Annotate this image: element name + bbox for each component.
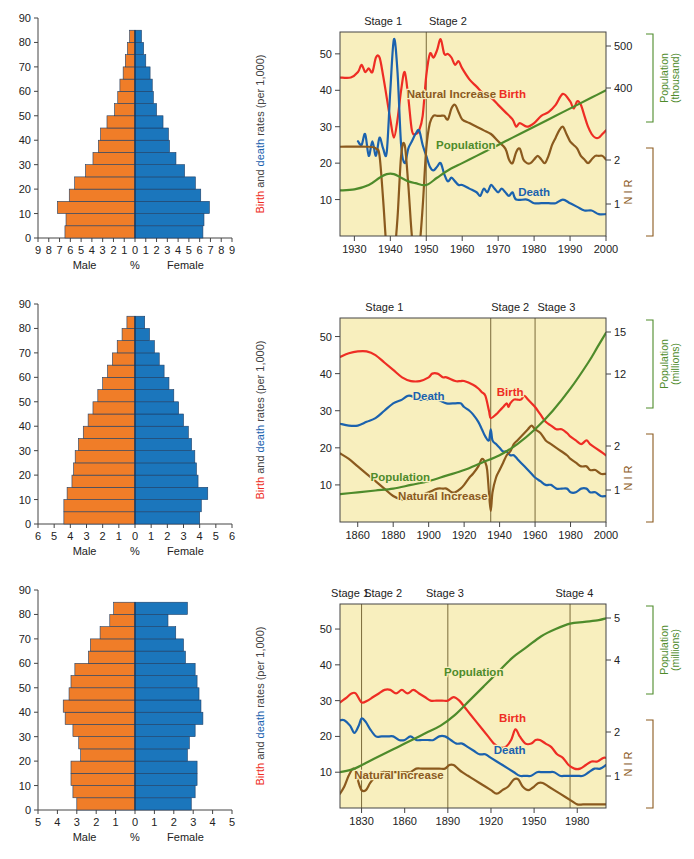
x-tick-label: 1	[113, 816, 119, 828]
right-tick-label: 2	[614, 154, 620, 166]
right-tick-label: 500	[614, 40, 632, 52]
table-row	[66, 214, 135, 226]
y-tick-label: 10	[320, 194, 332, 206]
table-row	[135, 737, 189, 749]
x-tick-label: 2	[93, 816, 99, 828]
x-tick-label: 1940	[378, 243, 402, 255]
series-label: Population	[444, 666, 503, 678]
female-axis-label: Female	[167, 545, 204, 557]
y-tick-label: 0	[25, 518, 31, 530]
series-label: Birth	[499, 712, 526, 724]
table-row	[123, 67, 135, 79]
table-row	[135, 798, 191, 810]
series-label: Death	[413, 390, 445, 402]
x-tick-label: 5	[35, 816, 41, 828]
y-tick-label: 0	[25, 232, 31, 244]
x-tick-label: 1920	[452, 529, 476, 541]
table-row	[135, 639, 184, 651]
x-tick-label: 0	[132, 530, 138, 542]
population-axis-label: Population(millions)	[658, 625, 681, 675]
table-row	[135, 316, 145, 328]
right-tick-label: 2	[614, 440, 620, 452]
x-tick-label: 1960	[450, 243, 474, 255]
table-row	[135, 128, 168, 140]
y-tick-label: 50	[19, 682, 31, 694]
table-row	[135, 676, 197, 688]
female-axis-label: Female	[167, 259, 204, 271]
x-tick-label: 8	[218, 244, 224, 256]
table-row	[135, 627, 176, 639]
nir-axis-bracket	[646, 720, 653, 808]
x-tick-label: 6	[67, 244, 73, 256]
table-row	[135, 614, 168, 626]
y-tick-label: 30	[19, 731, 31, 743]
x-tick-label: 1940	[487, 529, 511, 541]
y-tick-label: 10	[320, 766, 332, 778]
y-tick-label: 0	[25, 804, 31, 816]
table-row	[112, 353, 135, 365]
table-row	[122, 328, 135, 340]
y-tick-label: 40	[320, 368, 332, 380]
y-tick-label: 60	[19, 371, 31, 383]
x-tick-label: 2000	[594, 529, 618, 541]
series-label: Birth	[497, 386, 524, 398]
table-row	[135, 152, 176, 164]
table-row	[88, 651, 135, 663]
series-label: Population	[371, 471, 430, 483]
table-row	[135, 761, 197, 773]
x-tick-label: 1980	[558, 529, 582, 541]
table-row	[81, 749, 135, 761]
population-axis-bracket	[646, 606, 653, 694]
series-label: Birth	[499, 88, 526, 100]
y-tick-label: 40	[19, 420, 31, 432]
y-tick-label: 70	[19, 61, 31, 73]
y-tick-label: 40	[320, 659, 332, 671]
table-row	[135, 177, 195, 189]
x-tick-label: 4	[197, 530, 203, 542]
x-tick-label: 9	[229, 244, 235, 256]
table-row	[135, 67, 150, 79]
series-label: Natural Increase	[407, 88, 497, 100]
y-tick-label: 10	[19, 780, 31, 792]
table-row	[135, 426, 188, 438]
table-row	[103, 377, 135, 389]
table-row	[135, 79, 152, 91]
table-row	[135, 414, 184, 426]
table-row	[71, 761, 135, 773]
stage-label: Stage 2	[491, 301, 529, 313]
table-row	[75, 177, 135, 189]
table-row	[77, 798, 135, 810]
table-row	[73, 724, 135, 736]
male-axis-label: Male	[73, 545, 97, 557]
population-pyramid-1: 01020304050607080909876543210123456789Ma…	[0, 0, 250, 286]
table-row	[93, 402, 135, 414]
y-tick-label: 50	[320, 331, 332, 343]
line-chart-svg-3: 1020304050183018601890192019501980Birth …	[248, 572, 694, 858]
right-tick-label: 400	[614, 82, 632, 94]
x-tick-label: 1970	[486, 243, 510, 255]
male-axis-label: Male	[73, 831, 97, 843]
percent-axis-label: %	[130, 831, 140, 843]
series-label: Natural Increase	[398, 490, 488, 502]
table-row	[108, 365, 135, 377]
table-row	[73, 786, 135, 798]
right-tick-label: 4	[614, 654, 620, 666]
x-tick-label: 4	[67, 530, 73, 542]
table-row	[74, 463, 135, 475]
y-tick-label: 40	[320, 84, 332, 96]
x-tick-label: 2000	[594, 243, 618, 255]
x-tick-label: 1	[148, 530, 154, 542]
series-label: Population	[436, 139, 495, 151]
table-row	[127, 316, 135, 328]
x-tick-label: 3	[180, 530, 186, 542]
demographic-transition-chart-2: 1020304050186018801900192019401960198020…	[248, 286, 694, 572]
table-row	[135, 512, 200, 524]
x-tick-label: 2	[153, 244, 159, 256]
y-tick-label: 90	[19, 12, 31, 24]
pyramid-svg-1: 01020304050607080909876543210123456789Ma…	[0, 0, 250, 286]
y-tick-label: 20	[19, 183, 31, 195]
x-tick-label: 6	[197, 244, 203, 256]
table-row	[135, 688, 199, 700]
percent-axis-label: %	[130, 259, 140, 271]
table-row	[135, 700, 201, 712]
